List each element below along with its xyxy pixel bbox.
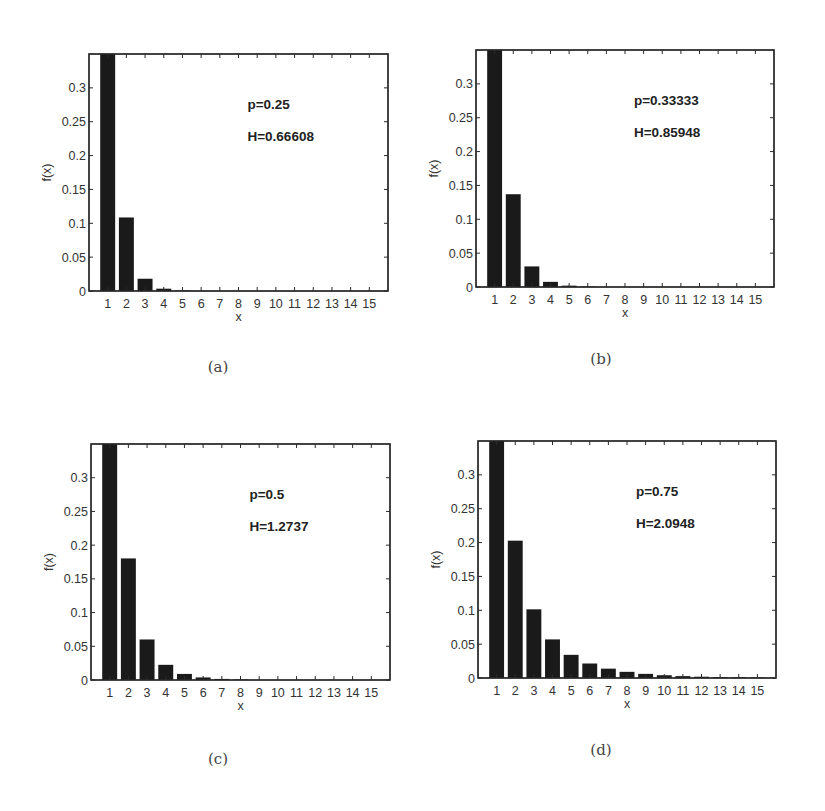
y-tick-label: 0.15: [64, 572, 88, 586]
x-tick-label: 13: [711, 293, 725, 307]
y-tick-label: 0.05: [449, 247, 473, 261]
y-tick-label: 0.1: [458, 604, 475, 618]
bar-x-2: [508, 541, 523, 678]
x-tick-label: 2: [510, 293, 517, 307]
x-tick-label: 11: [674, 293, 687, 307]
subplot-caption: (a): [208, 358, 229, 376]
x-tick-label: 7: [603, 293, 610, 307]
x-tick-label: 13: [325, 297, 339, 311]
y-tick-label: 0: [466, 281, 473, 295]
annotation-h: H=0.85948: [634, 125, 701, 140]
x-tick-label: 9: [256, 686, 263, 700]
x-tick-label: 12: [693, 293, 707, 307]
x-tick-label: 11: [290, 686, 303, 700]
x-tick-label: 13: [713, 684, 727, 698]
bar-x-3: [140, 639, 155, 680]
x-tick-label: 9: [254, 297, 261, 311]
x-tick-label: 10: [269, 297, 283, 311]
annotation-p: p=0.33333: [634, 93, 699, 108]
x-tick-label: 1: [491, 293, 498, 307]
bar-x-3: [526, 609, 541, 678]
x-tick-label: 1: [106, 686, 113, 700]
subplot-d: 12345678910111213141500.050.10.150.20.25…: [429, 441, 776, 759]
y-tick-label: 0.3: [69, 81, 86, 95]
bar-x-2: [506, 194, 521, 287]
bar-x-1: [487, 50, 502, 287]
y-tick-label: 0.2: [456, 145, 473, 159]
y-tick-label: 0.2: [458, 536, 475, 550]
x-tick-label: 6: [198, 297, 205, 311]
y-tick-label: 0.25: [62, 115, 86, 129]
x-tick-label: 1: [104, 297, 111, 311]
x-tick-label: 10: [655, 293, 669, 307]
x-tick-label: 12: [308, 686, 322, 700]
x-tick-label: 11: [288, 297, 301, 311]
x-tick-label: 4: [160, 297, 167, 311]
annotation-p: p=0.5: [249, 487, 284, 502]
x-tick-label: 2: [123, 297, 130, 311]
x-tick-label: 12: [695, 684, 709, 698]
subplot-c: 12345678910111213141500.050.10.150.20.25…: [42, 444, 390, 768]
subplot-caption: (d): [590, 741, 611, 759]
bar-x-1: [100, 54, 115, 291]
y-tick-label: 0.3: [456, 77, 473, 91]
x-tick-label: 15: [748, 293, 762, 307]
subplot-b: 12345678910111213141500.050.10.150.20.25…: [427, 50, 774, 368]
x-tick-label: 7: [216, 297, 223, 311]
y-tick-label: 0.15: [62, 183, 86, 197]
x-tick-label: 3: [530, 684, 537, 698]
y-tick-label: 0.15: [451, 570, 475, 584]
y-tick-label: 0.15: [449, 179, 473, 193]
x-tick-label: 14: [732, 684, 746, 698]
y-tick-label: 0.25: [64, 505, 88, 519]
x-tick-label: 8: [235, 297, 242, 311]
y-tick-label: 0.25: [449, 111, 473, 125]
y-tick-label: 0.05: [64, 640, 88, 654]
x-tick-label: 2: [512, 684, 519, 698]
y-tick-label: 0.2: [71, 539, 88, 553]
x-tick-label: 3: [142, 297, 149, 311]
x-tick-label: 7: [605, 684, 612, 698]
x-tick-label: 9: [642, 684, 649, 698]
y-tick-label: 0.1: [71, 606, 88, 620]
x-axis-label: x: [237, 699, 244, 713]
x-tick-label: 6: [584, 293, 591, 307]
bar-x-2: [121, 558, 136, 680]
x-tick-label: 5: [568, 684, 575, 698]
y-tick-label: 0: [468, 672, 475, 686]
x-tick-label: 6: [586, 684, 593, 698]
x-tick-label: 10: [657, 684, 671, 698]
x-tick-label: 5: [179, 297, 186, 311]
subplot-caption: (b): [590, 350, 611, 368]
y-tick-label: 0.25: [451, 502, 475, 516]
x-tick-label: 4: [549, 684, 556, 698]
y-tick-label: 0.05: [451, 638, 475, 652]
subplot-caption: (c): [208, 750, 228, 768]
annotation-h: H=0.66608: [247, 129, 314, 144]
annotation-p: p=0.75: [636, 484, 679, 499]
y-axis-label: f(x): [427, 159, 441, 177]
y-tick-label: 0: [81, 674, 88, 688]
y-tick-label: 0.1: [456, 213, 473, 227]
x-tick-label: 4: [162, 686, 169, 700]
bar-x-4: [545, 639, 560, 678]
x-tick-label: 7: [218, 686, 225, 700]
y-axis-label: f(x): [40, 163, 54, 181]
bar-x-2: [119, 217, 134, 291]
x-tick-label: 6: [200, 686, 207, 700]
x-tick-label: 5: [566, 293, 573, 307]
x-tick-label: 15: [364, 686, 378, 700]
x-axis-label: x: [235, 310, 242, 324]
y-axis-label: f(x): [429, 550, 443, 568]
y-tick-label: 0.3: [458, 468, 475, 482]
figure-2x2-bar-charts: 12345678910111213141500.050.10.150.20.25…: [0, 0, 825, 811]
x-axis-label: x: [622, 306, 629, 320]
annotation-h: H=1.2737: [249, 519, 308, 534]
x-tick-label: 3: [144, 686, 151, 700]
x-tick-label: 13: [327, 686, 341, 700]
x-tick-label: 14: [346, 686, 360, 700]
subplot-a: 12345678910111213141500.050.10.150.20.25…: [40, 54, 388, 376]
x-tick-label: 2: [125, 686, 132, 700]
x-tick-label: 1: [493, 684, 500, 698]
x-tick-label: 14: [730, 293, 744, 307]
